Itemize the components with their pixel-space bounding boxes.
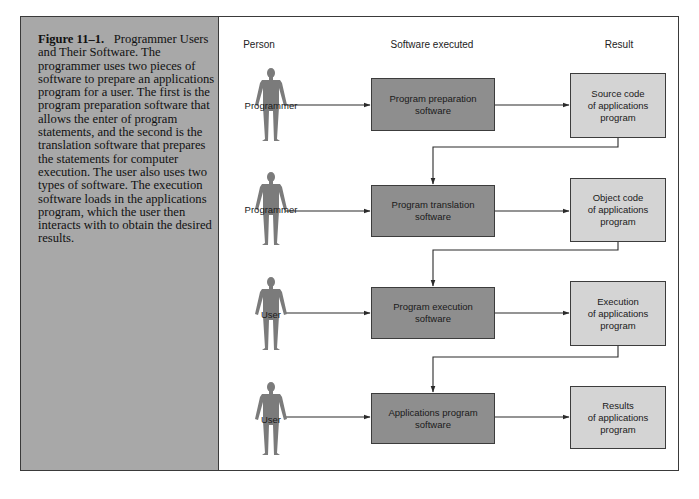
- result-box-results: Results of applications program: [570, 386, 666, 449]
- result-box-source-code: Source code of applications program: [570, 73, 666, 138]
- result-box-object-code: Object code of applications program: [570, 178, 666, 242]
- software-box-label: Program execution software: [393, 301, 473, 325]
- result-box-execution: Execution of applications program: [570, 281, 666, 346]
- figure-frame: Figure 11–1. Programmer Users and Their …: [20, 16, 679, 471]
- person-figure-user-1: User: [253, 276, 289, 352]
- result-box-label: Execution of applications program: [588, 296, 649, 332]
- software-box-program-execution: Program execution software: [371, 287, 495, 339]
- person-label: Programmer: [245, 204, 298, 215]
- software-box-program-translation: Program translation software: [371, 185, 495, 237]
- software-box-label: Program preparation software: [389, 93, 476, 117]
- person-label: User: [261, 414, 281, 425]
- result-box-label: Source code of applications program: [588, 88, 649, 124]
- software-box-applications-program: Applications program software: [371, 393, 495, 444]
- person-figure-user-2: User: [253, 381, 289, 457]
- software-box-label: Program translation software: [392, 199, 475, 223]
- person-label: User: [261, 309, 281, 320]
- person-label: Programmer: [245, 100, 298, 111]
- result-box-label: Object code of applications program: [588, 192, 649, 228]
- result-box-label: Results of applications program: [588, 400, 649, 436]
- person-figure-programmer-2: Programmer: [253, 171, 289, 247]
- person-figure-programmer-1: Programmer: [253, 67, 289, 143]
- software-box-program-preparation: Program preparation software: [371, 78, 495, 131]
- software-box-label: Applications program software: [388, 407, 477, 431]
